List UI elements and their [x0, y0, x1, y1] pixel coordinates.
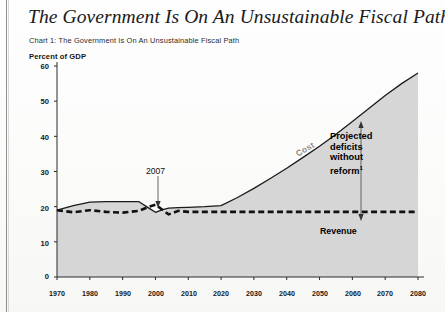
x-tick-label-2030: 2030 [241, 290, 267, 298]
y-tick-label-10: 10 [31, 239, 49, 248]
annotation-projected-text: Projected deficits without reform [330, 131, 372, 176]
x-tick-label-2070: 2070 [372, 290, 398, 298]
x-tick-label-1970: 1970 [44, 290, 70, 298]
y-tick-label-50: 50 [31, 97, 49, 106]
x-tick-label-1990: 1990 [110, 290, 136, 298]
y-tick-label-20: 20 [31, 204, 49, 213]
y-tick-label-60: 60 [31, 62, 49, 71]
chart-plot-area: 60 50 40 30 20 10 0 1970 1980 1990 2000 … [0, 0, 445, 312]
y-tick-label-40: 40 [31, 133, 49, 142]
annotation-projected-footnote: 1 [359, 165, 362, 171]
annotation-projected-deficits: Projected deficits without reform1 [330, 131, 392, 176]
x-tick-label-2040: 2040 [274, 290, 300, 298]
x-tick-label-2000: 2000 [143, 290, 169, 298]
y-tick-label-0: 0 [31, 272, 49, 281]
x-tick-label-2010: 2010 [176, 290, 202, 298]
x-tick-label-1980: 1980 [77, 290, 103, 298]
x-tick-label-2060: 2060 [340, 290, 366, 298]
year-marker-arrow [155, 176, 160, 208]
x-tick-label-2020: 2020 [208, 290, 234, 298]
annotation-revenue-label: Revenue [320, 226, 357, 236]
x-tick-label-2080: 2080 [405, 290, 431, 298]
x-tick-label-2050: 2050 [307, 290, 333, 298]
annotation-year-2007: 2007 [146, 166, 165, 176]
y-tick-label-30: 30 [31, 168, 49, 177]
